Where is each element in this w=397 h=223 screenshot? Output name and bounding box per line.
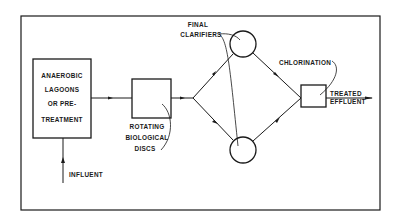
influent-arrow-icon: [61, 157, 65, 163]
chlorination-box: [301, 85, 326, 107]
effluent-label-2: EFFLUENT: [330, 98, 366, 105]
rbd-label-1: ROTATING: [130, 123, 165, 130]
effluent-arrow-icon: [365, 97, 373, 100]
pretreatment-label-2: LAGOONS: [45, 86, 80, 93]
pretreatment-label-3: OR PRE-: [48, 100, 77, 107]
rbd-box: [132, 79, 171, 118]
clarifiers-label-1: FINAL: [188, 21, 208, 28]
clarifiers-label-2: CLARIFIERS: [180, 31, 222, 38]
flow-line-to-bottom-clarifier: [193, 98, 233, 140]
pretreatment-box: [33, 59, 91, 138]
chlorination-label: CHLORINATION: [279, 59, 331, 66]
flow-arrow-icon: [108, 97, 113, 100]
influent-label: INFLUENT: [69, 171, 103, 178]
flow-arrow-icon: [180, 97, 185, 100]
pretreatment-label-1: ANAEROBIC: [41, 72, 82, 79]
pretreatment-label-4: TREATMENT: [41, 116, 83, 123]
top-clarifier: [230, 31, 256, 57]
bottom-clarifier: [230, 137, 256, 163]
rbd-label-2: BIOLOGICAL: [125, 134, 168, 141]
effluent-label-1: TREATED: [330, 90, 362, 97]
rbd-label-3: DISCS: [134, 145, 155, 152]
clarifiers-leader-bottom: [219, 34, 238, 146]
outer-frame: [21, 16, 380, 210]
wastewater-flow-diagram: ANAEROBIC LAGOONS OR PRE- TREATMENT INFL…: [0, 0, 397, 223]
flow-line-to-top-clarifier: [193, 54, 233, 98]
clarifiers-leader-top: [219, 34, 240, 40]
